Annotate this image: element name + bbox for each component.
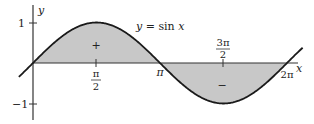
pi-label: π (155, 66, 164, 79)
y-axis-label: y (37, 4, 45, 17)
plus-sign: + (91, 39, 100, 52)
two-pi-label: 2π (281, 69, 294, 80)
function-label: y = sin x (135, 20, 185, 33)
three-pi-half-numerator: 3π (217, 37, 230, 48)
three-pi-half-denominator: 2 (220, 49, 226, 60)
minus-sign: − (217, 79, 226, 92)
pi-half-numerator: π (93, 68, 100, 79)
y-tick-label-1: 1 (18, 17, 25, 30)
x-axis-label: x (296, 62, 303, 75)
y-tick-label-neg1: −1 (12, 98, 28, 111)
sine-chart: y 1 −1 y = sin x π 2 π 3π 2 2π x + − (0, 0, 314, 124)
chart-svg: y 1 −1 y = sin x π 2 π 3π 2 2π x + − (0, 0, 314, 124)
pi-half-denominator: 2 (93, 81, 99, 92)
